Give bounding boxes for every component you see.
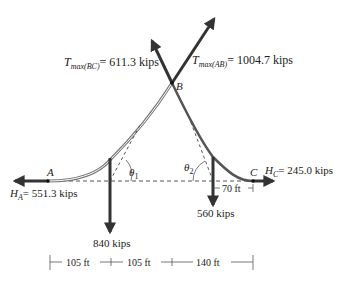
cable-diagram: Tmax(BC)= 611.3 kips Tmax(AB)= 1004.7 ki… xyxy=(0,0,344,290)
load-840-label: 840 kips xyxy=(93,237,131,249)
svg-text:Tmax(BC)= 611.3 kips: Tmax(BC)= 611.3 kips xyxy=(64,55,159,71)
dim-span-3: 140 ft xyxy=(196,257,220,268)
svg-text:Tmax(AB)= 1004.7 kips: Tmax(AB)= 1004.7 kips xyxy=(192,53,293,69)
tbc-value: = 611.3 kips xyxy=(100,55,160,69)
tab-subscript: max(AB) xyxy=(199,60,228,69)
point-b-label: B xyxy=(176,80,183,92)
point-c-label: C xyxy=(250,166,258,178)
theta2-sub: 2 xyxy=(189,167,193,176)
hc-value: = 245.0 kips xyxy=(278,164,333,176)
svg-text:HA= 551.3 kips: HA= 551.3 kips xyxy=(9,187,78,202)
svg-text:θ1: θ1 xyxy=(129,166,138,181)
tbc-subscript: max(BC) xyxy=(71,62,100,71)
tension-ab-arrow xyxy=(172,19,214,83)
tab-value: = 1004.7 kips xyxy=(227,53,293,67)
dim-span-1: 105 ft xyxy=(66,257,90,268)
ha-value: = 551.3 kips xyxy=(23,187,78,199)
load-560-label: 560 kips xyxy=(197,207,235,219)
dim-70ft: 70 ft xyxy=(222,183,241,194)
point-a-label: A xyxy=(46,166,54,178)
angle-theta2-arc xyxy=(193,161,205,181)
svg-text:HC= 245.0 kips: HC= 245.0 kips xyxy=(264,164,333,179)
theta1-sub: 1 xyxy=(134,172,138,181)
dim-span-2: 105 ft xyxy=(127,257,151,268)
svg-text:θ2: θ2 xyxy=(184,161,193,176)
